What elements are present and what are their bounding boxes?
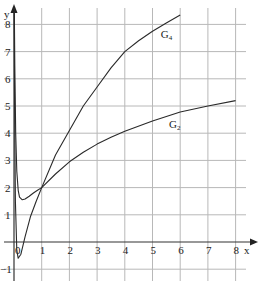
y-tick-label: 5 (5, 100, 11, 112)
y-tick-label: 6 (5, 73, 11, 85)
y-tick-label: 8 (5, 18, 11, 30)
x-tick-label: 2 (67, 244, 73, 256)
y-tick-label: 2 (5, 182, 11, 194)
x-tick-label: 3 (95, 244, 101, 256)
x-tick-label: 7 (206, 244, 212, 256)
x-tick-label: 1 (40, 244, 46, 256)
x-tick-label: 4 (123, 244, 129, 256)
y-tick-label: 1 (5, 209, 11, 221)
x-tick-label: 6 (178, 244, 184, 256)
y-tick-label: 4 (5, 127, 11, 139)
function-graph: x y 012345678−112345678 G4G2 (0, 0, 258, 281)
y-tick-label: 7 (5, 46, 11, 58)
label-g2: G2 (169, 118, 181, 132)
y-tick-label: 3 (5, 154, 11, 166)
x-tick-label: 8 (234, 244, 240, 256)
x-tick-label: 5 (151, 244, 157, 256)
y-tick-label: −1 (0, 263, 12, 275)
label-g4: G4 (161, 28, 173, 42)
x-axis-arrow-icon (250, 239, 258, 246)
grid-lines (4, 8, 246, 281)
curve-labels: G4G2 (161, 28, 181, 132)
x-axis-label: x (244, 244, 250, 256)
